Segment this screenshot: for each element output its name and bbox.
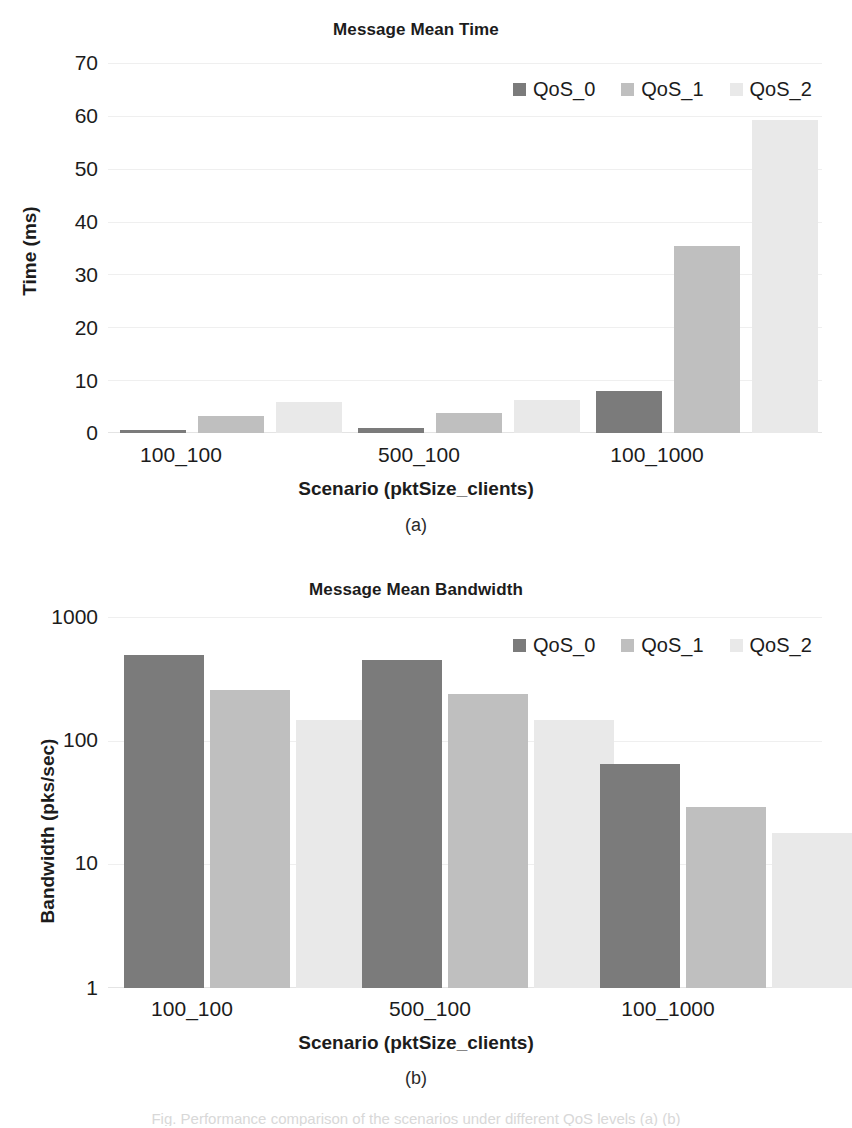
legend-label-qos1: QoS_1 — [641, 78, 703, 101]
x-axis-label-bandwidth: Scenario (pktSize_clients) — [0, 1032, 832, 1054]
legend-label-qos2: QoS_2 — [750, 78, 812, 101]
bar-bw-100_100-qos0 — [124, 655, 204, 988]
y-tick-1: 1 — [10, 976, 98, 1000]
bar-bw-100_1000-qos0 — [600, 764, 680, 988]
bar-100_100-qos0 — [120, 430, 186, 433]
x-tick-500_100-time: 500_100 — [329, 443, 509, 467]
legend-label-bw-qos2: QoS_2 — [750, 634, 812, 657]
gridline-70 — [108, 63, 822, 64]
y-tick-10: 10 — [10, 851, 98, 875]
legend-item-qos2[interactable]: QoS_2 — [730, 78, 812, 101]
y-tick-10: 10 — [50, 369, 98, 393]
gridline-1000 — [108, 617, 822, 618]
bar-bw-100_1000-qos2 — [772, 833, 852, 988]
figure-b: Message Mean Bandwidth Bandwidth (pks/se… — [0, 560, 832, 1128]
bar-100_1000-qos2 — [752, 120, 818, 433]
bar-500_100-qos2 — [514, 400, 580, 433]
figure-caption-a: (a) — [0, 515, 832, 536]
x-axis-label-time: Scenario (pktSize_clients) — [0, 478, 832, 500]
y-tick-70: 70 — [50, 51, 98, 75]
legend-item-bw-qos1[interactable]: QoS_1 — [621, 634, 703, 657]
y-axis-label-time: Time (ms) — [19, 181, 41, 321]
legend-swatch-bw-qos0-icon — [513, 639, 526, 652]
x-tick-100_1000-bw: 100_1000 — [578, 997, 758, 1021]
bar-100_100-qos1 — [198, 416, 264, 433]
x-tick-500_100-bw: 500_100 — [340, 997, 520, 1021]
legend-time: QoS_0 QoS_1 QoS_2 — [513, 78, 812, 101]
bar-500_100-qos1 — [436, 413, 502, 433]
figure-a: Message Mean Time Time (ms) 70 60 50 40 … — [0, 0, 832, 560]
gridline-40 — [108, 222, 822, 223]
y-tick-40: 40 — [50, 210, 98, 234]
legend-item-qos0[interactable]: QoS_0 — [513, 78, 595, 101]
bar-bw-100_100-qos1 — [210, 690, 290, 988]
bar-100_1000-qos1 — [674, 246, 740, 433]
bar-bw-500_100-qos0 — [362, 660, 442, 988]
legend-label-bw-qos1: QoS_1 — [641, 634, 703, 657]
legend-label-qos0: QoS_0 — [533, 78, 595, 101]
chart-title-time: Message Mean Time — [0, 20, 832, 40]
y-tick-0: 0 — [50, 421, 98, 445]
legend-label-bw-qos0: QoS_0 — [533, 634, 595, 657]
legend-item-bw-qos0[interactable]: QoS_0 — [513, 634, 595, 657]
legend-bandwidth: QoS_0 QoS_1 QoS_2 — [513, 634, 812, 657]
legend-swatch-bw-qos1-icon — [621, 639, 634, 652]
y-tick-20: 20 — [50, 316, 98, 340]
page-bottom-cut-text: Fig. Performance comparison of the scena… — [0, 1112, 832, 1126]
x-tick-100_100-time: 100_100 — [91, 443, 271, 467]
chart-title-bandwidth: Message Mean Bandwidth — [0, 580, 832, 600]
page-bottom-cut-text-line: Fig. Performance comparison of the scena… — [0, 1112, 832, 1126]
bar-100_100-qos2 — [276, 402, 342, 433]
figure-caption-b: (b) — [0, 1068, 832, 1089]
gridline-50 — [108, 169, 822, 170]
legend-swatch-qos2-icon — [730, 83, 743, 96]
y-tick-30: 30 — [50, 263, 98, 287]
y-tick-60: 60 — [50, 104, 98, 128]
legend-swatch-qos1-icon — [621, 83, 634, 96]
legend-swatch-bw-qos2-icon — [730, 639, 743, 652]
legend-item-bw-qos2[interactable]: QoS_2 — [730, 634, 812, 657]
x-tick-100_100-bw: 100_100 — [102, 997, 282, 1021]
bar-500_100-qos0 — [358, 428, 424, 433]
y-tick-50: 50 — [50, 157, 98, 181]
legend-swatch-qos0-icon — [513, 83, 526, 96]
bar-bw-100_1000-qos1 — [686, 807, 766, 988]
plot-area-bandwidth — [108, 617, 822, 988]
bar-bw-500_100-qos1 — [448, 694, 528, 988]
legend-item-qos1[interactable]: QoS_1 — [621, 78, 703, 101]
bar-100_1000-qos0 — [596, 391, 662, 433]
y-tick-100: 100 — [10, 728, 98, 752]
y-tick-1000: 1000 — [10, 605, 98, 629]
x-tick-100_1000-time: 100_1000 — [567, 443, 747, 467]
gridline-60 — [108, 116, 822, 117]
plot-area-time — [108, 63, 822, 433]
